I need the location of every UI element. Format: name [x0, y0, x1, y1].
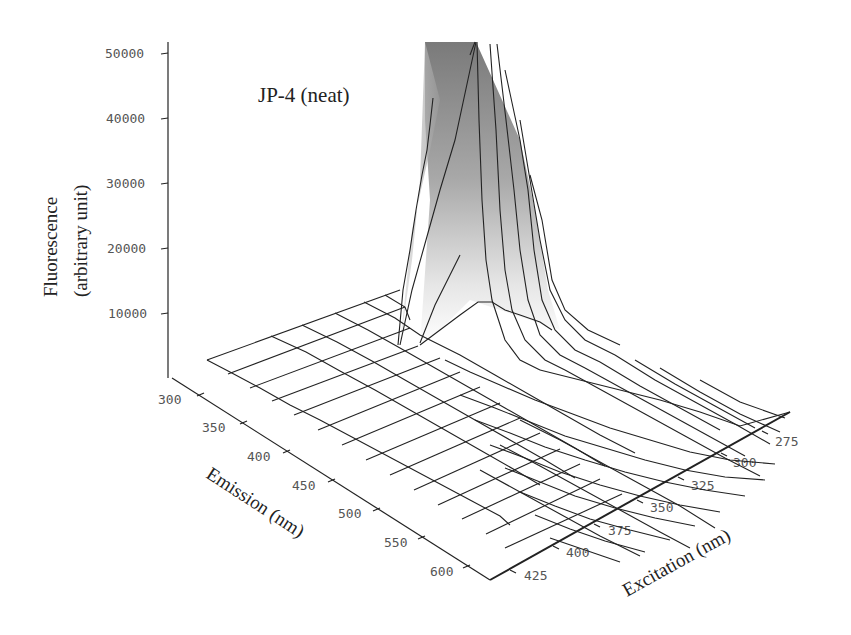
emission-tick-300: 300 [158, 392, 181, 407]
z-tick-30000: 30000 [106, 176, 145, 191]
excitation-axis: 425 400 375 350 325 300 275 Excitation (… [490, 412, 798, 601]
excitation-tick-425: 425 [524, 568, 547, 583]
emission-axis: 300 350 400 450 500 550 600 Emission (nm… [158, 378, 490, 580]
emission-tick-400: 400 [247, 449, 270, 464]
z-tick-10000: 10000 [108, 306, 147, 321]
z-axis: 50000 40000 30000 20000 10000 Fluorescen… [40, 42, 168, 378]
excitation-axis-title: Excitation (nm) [619, 524, 734, 601]
emission-tick-600: 600 [430, 564, 453, 579]
z-axis-title-line2: (arbitrary unit) [70, 185, 92, 297]
excitation-tick-275: 275 [775, 434, 798, 449]
z-tick-50000: 50000 [105, 46, 144, 61]
z-axis-title-line1: Fluorescence [40, 197, 61, 297]
emission-tick-500: 500 [338, 506, 361, 521]
emission-tick-550: 550 [384, 535, 407, 550]
emission-tick-450: 450 [292, 478, 315, 493]
plot-title: JP-4 (neat) [258, 83, 350, 107]
z-tick-20000: 20000 [107, 241, 146, 256]
fluorescence-surface-plot: JP-4 (neat) 50000 40000 30000 20000 1000… [0, 0, 851, 635]
emission-axis-title: Emission (nm) [202, 463, 308, 543]
emission-tick-350: 350 [202, 420, 225, 435]
z-tick-40000: 40000 [106, 111, 145, 126]
